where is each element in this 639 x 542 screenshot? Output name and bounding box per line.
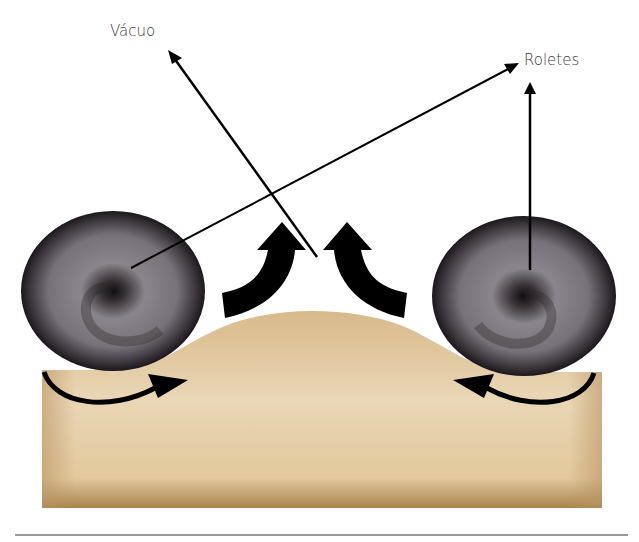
rollers-pointer-left	[131, 63, 519, 268]
right-roller	[432, 216, 616, 376]
up-arrow-right-icon	[323, 222, 407, 318]
left-roller	[21, 211, 205, 371]
rollers-label: Roletes	[524, 51, 579, 69]
diagram-canvas	[0, 0, 639, 542]
vacuum-pointer	[168, 50, 317, 257]
up-arrow-left-icon	[222, 222, 306, 318]
vacuum-label: Vácuo	[110, 22, 155, 40]
